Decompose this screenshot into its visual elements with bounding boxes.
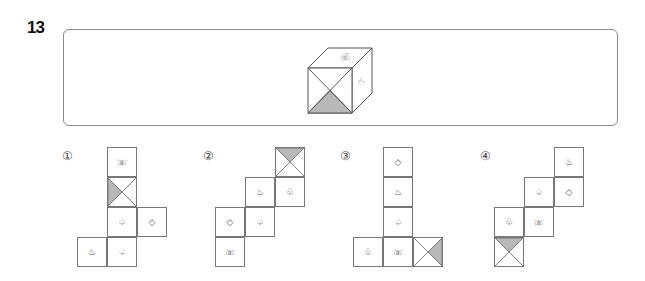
net-face-hand-icon: ☏ [107, 147, 137, 177]
net-face-x-face-left-shaded [107, 177, 137, 207]
option-3-label[interactable]: ③ [340, 149, 351, 163]
hand-icon: ☏ [224, 247, 235, 257]
spade-icon: ♤ [118, 247, 126, 257]
net-face-spade-icon: ♤ [524, 177, 554, 207]
net-face-x-face-top-shaded [494, 237, 524, 267]
option-1-label[interactable]: ① [62, 149, 73, 163]
diamond-icon: ◇ [227, 217, 234, 227]
net-face-x-face-top-shaded [275, 147, 305, 177]
club-icon: ♧ [364, 247, 372, 257]
net-face-diamond-icon: ◇ [554, 177, 584, 207]
hand-icon: ☏ [533, 217, 544, 227]
net-face-hand-icon: ☏ [383, 237, 413, 267]
net-face-hand-icon: ☏ [524, 207, 554, 237]
net-face-spade-icon: ♤ [383, 207, 413, 237]
hot-spring-icon: ♨ [565, 157, 573, 167]
diamond-icon: ◇ [149, 217, 156, 227]
hot-spring-icon: ♨ [88, 247, 96, 257]
spade-icon: ♤ [256, 217, 264, 227]
hot-spring-icon: ♨ [394, 187, 402, 197]
club-icon: ♧ [505, 217, 513, 227]
option-4-label[interactable]: ④ [480, 149, 491, 163]
net-face-hot-spring-icon: ♨ [245, 177, 275, 207]
diamond-icon: ◇ [566, 187, 573, 197]
hand-icon: ☏ [116, 157, 127, 167]
net-face-x-face-right-shaded [413, 237, 443, 267]
diamond-icon: ◇ [395, 157, 402, 167]
option-2-label[interactable]: ② [203, 149, 214, 163]
spade-icon: ♤ [118, 217, 126, 227]
spade-icon: ♤ [394, 217, 402, 227]
net-face-diamond-icon: ◇ [137, 207, 167, 237]
club-icon: ♧ [286, 187, 294, 197]
hand-icon: ☏ [392, 247, 403, 257]
net-face-diamond-icon: ◇ [215, 207, 245, 237]
net-face-spade-icon: ♤ [107, 207, 137, 237]
net-face-spade-icon: ♤ [245, 207, 275, 237]
net-face-club-icon: ♧ [494, 207, 524, 237]
net-face-hot-spring-icon: ♨ [77, 237, 107, 267]
hot-spring-icon: ♨ [256, 187, 264, 197]
net-face-club-icon: ♧ [275, 177, 305, 207]
net-face-spade-icon: ♤ [107, 237, 137, 267]
spade-icon: ♤ [535, 187, 543, 197]
net-face-hot-spring-icon: ♨ [554, 147, 584, 177]
net-face-hand-icon: ☏ [215, 237, 245, 267]
net-face-hot-spring-icon: ♨ [383, 177, 413, 207]
net-face-club-icon: ♧ [353, 237, 383, 267]
net-face-diamond-icon: ◇ [383, 147, 413, 177]
